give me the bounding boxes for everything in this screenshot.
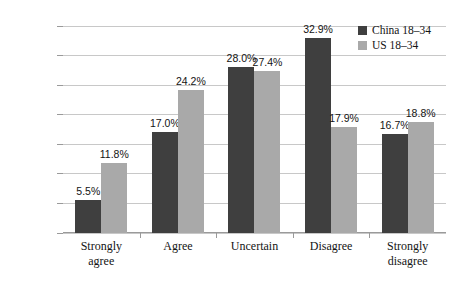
x-axis-category-label: Disagree [293,239,370,268]
x-axis-category-label: Agree [140,239,217,268]
bar-fill [178,90,204,233]
x-axis-category-label: Stronglydisagree [369,239,446,268]
bar-fill [75,200,101,233]
bar-fill [305,38,331,233]
bar-fill [152,132,178,233]
bar-china[interactable]: 17.0% [152,132,178,233]
chart-figure: 0.0%5.0%10.0%15.0%20.0%25.0%30.0%35.0% 5… [0,0,452,283]
bar-china[interactable]: 28.0% [228,67,254,233]
bar-us[interactable]: 27.4% [254,71,280,233]
legend-swatch-us-icon [358,41,367,50]
x-axis-category-line: disagree [369,254,446,269]
legend-item-us[interactable]: US 18–34 [358,39,431,52]
x-axis-category-line: Agree [140,239,217,254]
x-axis-labels: StronglyagreeAgreeUncertainDisagreeStron… [63,239,446,268]
bar-china[interactable]: 16.7% [382,134,408,233]
x-axis-category-line: agree [63,254,140,269]
legend-label-china: China 18–34 [372,24,431,37]
x-axis-category-line: Strongly [369,239,446,254]
x-axis-category-label: Stronglyagree [63,239,140,268]
bar-value-label: 11.8% [100,149,129,160]
bar-fill [408,122,434,233]
x-axis-category-line: Disagree [293,239,370,254]
bar-fill [101,163,127,233]
bar-us[interactable]: 24.2% [178,90,204,233]
bar-group: 32.9%17.9% [293,26,370,233]
bar-fill [228,67,254,233]
bar-value-label: 16.7% [380,120,410,131]
bar-value-label: 17.0% [150,118,180,129]
bar-fill [331,127,357,233]
bar-value-label: 5.5% [76,186,100,197]
bar-fill [382,134,408,233]
legend-label-us: US 18–34 [372,39,418,52]
bar-value-label: 24.2% [176,76,206,87]
bar-value-label: 18.8% [406,108,436,119]
legend-item-china[interactable]: China 18–34 [358,24,431,37]
x-axis-category-label: Uncertain [216,239,293,268]
legend-swatch-china-icon [358,26,367,35]
bar-groups: 5.5%11.8%17.0%24.2%28.0%27.4%32.9%17.9%1… [63,26,446,233]
bar-group: 17.0%24.2% [140,26,217,233]
bar-value-label: 32.9% [303,24,333,35]
bar-us[interactable]: 18.8% [408,122,434,233]
bar-china[interactable]: 32.9% [305,38,331,233]
x-axis-category-line: Uncertain [216,239,293,254]
plot-area: 0.0%5.0%10.0%15.0%20.0%25.0%30.0%35.0% 5… [63,26,446,233]
bar-us[interactable]: 11.8% [101,163,127,233]
bar-group: 16.7%18.8% [369,26,446,233]
bar-value-label: 17.9% [329,113,359,124]
bar-fill [254,71,280,233]
legend: China 18–34 US 18–34 [358,24,431,52]
bar-us[interactable]: 17.9% [331,127,357,233]
x-axis-category-line: Strongly [63,239,140,254]
bar-group: 5.5%11.8% [63,26,140,233]
bar-value-label: 27.4% [253,57,283,68]
bar-china[interactable]: 5.5% [75,200,101,233]
bar-group: 28.0%27.4% [216,26,293,233]
